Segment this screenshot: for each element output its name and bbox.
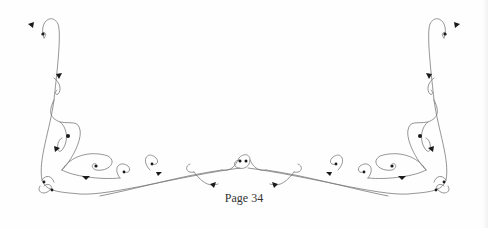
center-knot bbox=[222, 155, 250, 171]
left-main-stem bbox=[41, 19, 240, 194]
right-main-stem bbox=[248, 19, 447, 194]
document-page: Page 34 bbox=[0, 0, 488, 228]
leaf-accents bbox=[28, 22, 460, 191]
page-number: Page 34 bbox=[0, 191, 488, 206]
